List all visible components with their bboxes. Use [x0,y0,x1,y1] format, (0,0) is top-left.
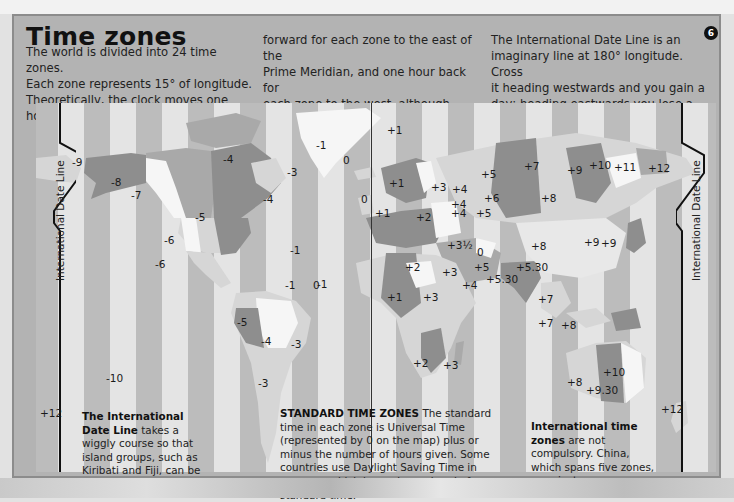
intro-line: imaginary line at 180° longitude. Cross [491,48,717,80]
zone-offset-label: +8 [531,240,546,252]
zone-offset-label: +11 [614,161,636,173]
zone-offset-label: +8 [567,376,582,388]
note-standard-heading: STANDARD TIME ZONES [280,407,419,419]
zone-offset-label: +12 [661,403,683,415]
zone-offset-label: -4 [261,335,271,347]
zone-offset-label: +7 [538,317,553,329]
page-background-bottom [0,478,734,498]
zone-offset-label: +5 [476,207,491,219]
zone-offset-label: +3 [443,359,458,371]
zone-offset-label: +10 [589,159,611,171]
zone-offset-label: +2 [405,261,420,273]
zone-offset-label: +12 [648,162,670,174]
zone-offset-label: -3 [287,166,297,178]
intro-line: Prime Meridian, and one hour back for [263,64,483,96]
date-line-label-right: International Date Line [690,160,702,281]
zone-offset-label: +1 [387,291,402,303]
zone-offset-label: -6 [164,234,174,246]
zone-offset-label: +5.30 [516,261,548,273]
zone-offset-label: -8 [111,176,121,188]
intro-line: forward for each zone to the east of the [263,32,483,64]
zone-offset-label: -10 [106,372,123,384]
intro-line: The world is divided into 24 time zones. [26,44,256,76]
zone-offset-label: +2 [413,357,428,369]
zone-offset-label: -1 [317,278,327,290]
zone-offset-label: +1 [375,207,390,219]
zone-offset-label: -1 [285,279,295,291]
zone-offset-label: +1 [389,177,404,189]
zone-offset-label: -4 [223,153,233,165]
zone-offset-label: +7 [524,160,539,172]
zone-offset-label: -6 [155,258,165,270]
intro-line: it heading westwards and you gain a [491,80,717,96]
zone-offset-label: +3 [431,181,446,193]
zone-offset-label: +3 [442,266,457,278]
zone-offset-label: +4 [451,207,466,219]
zone-offset-label: +10 [603,366,625,378]
zone-offset-label: 0 [361,193,368,205]
zone-offset-label: +5 [481,168,496,180]
zone-offset-label: -3 [291,338,301,350]
zone-offset-label: +4 [452,183,467,195]
zone-offset-label: 0 [343,154,350,166]
zone-offset-label: -5 [195,211,205,223]
zone-offset-label: -4 [263,193,273,205]
zone-offset-label: +9.30 [586,384,618,396]
zone-offset-label: +4 [462,279,477,291]
zone-offset-label: -1 [316,139,326,151]
zone-offset-label: +12 [40,407,62,419]
page-background-top [0,0,734,14]
date-line-label-left: International Date Line [54,160,66,281]
intro-line: The International Date Line is an [491,32,717,48]
zone-offset-label: -3 [258,377,268,389]
zone-offset-label: -1 [290,244,300,256]
international-date-line-right [676,103,716,472]
zone-offset-label: 0 [477,246,484,258]
zone-offset-label: +9 [567,164,582,176]
zone-offset-label: +6 [484,192,499,204]
zone-offset-label: +9 [584,236,599,248]
zone-offset-label: +7 [538,293,553,305]
zone-offset-label: +5 [474,261,489,273]
intro-line: Each zone represents 15° of longitude. [26,76,256,92]
zone-offset-label: +3½ [447,239,473,251]
zone-offset-label: +8 [561,319,576,331]
zone-offset-label: +9 [601,237,616,249]
zone-offset-label: -7 [131,189,141,201]
zone-offset-label: +3 [423,291,438,303]
zone-offset-label: -9 [72,156,82,168]
zone-offset-label: +5.30 [486,273,518,285]
zone-offset-label: +1 [387,124,402,136]
zone-offset-label: +2 [416,211,431,223]
zone-offset-label: +8 [541,192,556,204]
zone-offset-label: -5 [237,316,247,328]
